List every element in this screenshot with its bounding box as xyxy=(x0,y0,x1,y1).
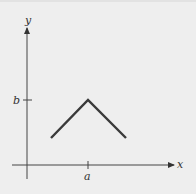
y-tick-label-b: b xyxy=(13,94,20,107)
tent-curve xyxy=(51,100,126,138)
diagram-frame: y x b a xyxy=(0,0,196,194)
x-axis-label: x xyxy=(177,158,184,171)
graph: y x b a xyxy=(0,2,196,194)
x-tick-label-a: a xyxy=(84,170,91,183)
y-axis-label: y xyxy=(24,14,32,27)
